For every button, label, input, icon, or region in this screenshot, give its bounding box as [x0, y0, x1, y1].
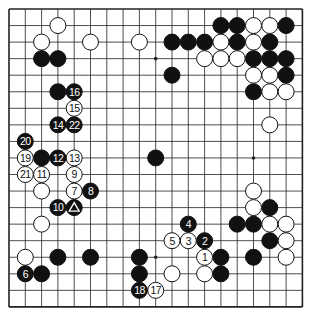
black-stone[interactable]	[246, 51, 262, 67]
move-number-label: 12	[53, 152, 64, 164]
move-number-label: 2	[202, 235, 208, 247]
white-stone[interactable]	[213, 51, 229, 67]
move-21-stone[interactable]: 21	[17, 167, 33, 183]
black-stone[interactable]	[213, 266, 229, 282]
black-stone[interactable]	[164, 67, 180, 83]
move-number-label: 4	[186, 218, 192, 230]
move-4-stone[interactable]: 4	[180, 216, 196, 232]
move-15-stone[interactable]: 15	[66, 100, 82, 116]
white-stone[interactable]	[246, 18, 262, 34]
white-stone[interactable]	[278, 249, 294, 265]
move-6-stone[interactable]: 6	[17, 266, 33, 282]
black-stone[interactable]	[197, 34, 213, 50]
black-stone[interactable]	[34, 51, 50, 67]
move-13-stone[interactable]: 13	[66, 150, 82, 166]
black-stone[interactable]	[246, 249, 262, 265]
white-stone[interactable]	[262, 18, 278, 34]
white-stone[interactable]	[131, 34, 147, 50]
black-stone[interactable]	[229, 216, 245, 232]
black-stone[interactable]	[180, 34, 196, 50]
star-point	[154, 255, 158, 259]
black-stone[interactable]	[164, 34, 180, 50]
white-stone[interactable]	[34, 183, 50, 199]
move-17-stone[interactable]: 17	[148, 282, 164, 298]
black-stone[interactable]	[229, 34, 245, 50]
black-stone[interactable]	[262, 51, 278, 67]
move-number-label: 13	[69, 152, 80, 164]
move-number-label: 9	[72, 168, 78, 180]
white-stone[interactable]	[213, 34, 229, 50]
move-2-stone[interactable]: 2	[197, 233, 213, 249]
black-stone[interactable]	[229, 18, 245, 34]
white-stone[interactable]	[278, 216, 294, 232]
move-22-stone[interactable]: 22	[66, 117, 82, 133]
white-stone[interactable]	[197, 51, 213, 67]
black-stone[interactable]	[50, 51, 66, 67]
move-20-stone[interactable]: 20	[17, 133, 33, 149]
move-number-label: 14	[53, 119, 64, 131]
move-14-stone[interactable]: 14	[50, 117, 66, 133]
move-5-stone[interactable]: 5	[164, 233, 180, 249]
white-stone[interactable]	[246, 67, 262, 83]
black-stone[interactable]	[131, 249, 147, 265]
white-stone[interactable]	[262, 216, 278, 232]
black-stone[interactable]	[50, 84, 66, 100]
move-number-label: 7	[72, 185, 78, 197]
move-number-label: 17	[150, 284, 161, 296]
white-stone[interactable]	[34, 34, 50, 50]
move-18-stone[interactable]: 18	[131, 282, 147, 298]
move-number-label: 16	[69, 86, 80, 98]
black-stone[interactable]	[83, 249, 99, 265]
move-11-stone[interactable]: 11	[34, 167, 50, 183]
white-stone[interactable]	[262, 117, 278, 133]
white-stone[interactable]	[278, 233, 294, 249]
move-number-label: 20	[20, 135, 31, 147]
black-stone[interactable]	[148, 150, 164, 166]
move-number-label: 6	[23, 268, 29, 280]
black-stone[interactable]	[278, 67, 294, 83]
white-stone[interactable]	[83, 34, 99, 50]
move-7-stone[interactable]: 7	[66, 183, 82, 199]
black-stone[interactable]	[213, 249, 229, 265]
white-stone[interactable]	[262, 67, 278, 83]
black-stone[interactable]	[131, 266, 147, 282]
white-stone[interactable]	[50, 18, 66, 34]
go-board[interactable]: 12345678910111213141516171819202122	[0, 0, 312, 316]
black-stone[interactable]	[246, 216, 262, 232]
move-12-stone[interactable]: 12	[50, 150, 66, 166]
black-stone[interactable]	[278, 51, 294, 67]
move-number-label: 8	[88, 185, 94, 197]
white-stone[interactable]	[262, 84, 278, 100]
move-number-label: 11	[37, 168, 47, 180]
move-8-stone[interactable]: 8	[83, 183, 99, 199]
markers-layer	[66, 200, 82, 216]
black-stone[interactable]	[34, 150, 50, 166]
white-stone[interactable]	[246, 200, 262, 216]
white-stone[interactable]	[17, 249, 33, 265]
move-10-stone[interactable]: 10	[50, 200, 66, 216]
white-stone[interactable]	[246, 34, 262, 50]
move-3-stone[interactable]: 3	[180, 233, 196, 249]
white-stone[interactable]	[278, 84, 294, 100]
move-19-stone[interactable]: 19	[17, 150, 33, 166]
black-stone[interactable]	[213, 18, 229, 34]
white-stone[interactable]	[197, 266, 213, 282]
black-stone[interactable]	[246, 84, 262, 100]
marked-stone[interactable]	[66, 200, 82, 216]
black-stone[interactable]	[262, 200, 278, 216]
move-number-label: 15	[69, 102, 80, 114]
black-stone[interactable]	[34, 266, 50, 282]
move-1-stone[interactable]: 1	[197, 249, 213, 265]
white-stone[interactable]	[164, 266, 180, 282]
move-number-label: 3	[186, 235, 192, 247]
white-stone[interactable]	[246, 183, 262, 199]
move-16-stone[interactable]: 16	[66, 84, 82, 100]
white-stone[interactable]	[229, 51, 245, 67]
move-9-stone[interactable]: 9	[66, 167, 82, 183]
white-stone[interactable]	[34, 216, 50, 232]
black-stone[interactable]	[262, 34, 278, 50]
black-stone[interactable]	[278, 18, 294, 34]
star-point	[154, 57, 158, 61]
black-stone[interactable]	[262, 233, 278, 249]
black-stone[interactable]	[50, 249, 66, 265]
